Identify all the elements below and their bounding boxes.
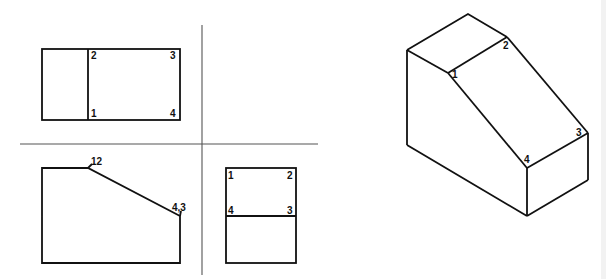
front-view-label-12: 12 bbox=[91, 157, 102, 167]
page-edge-strip bbox=[601, 0, 606, 279]
top-view-label-3: 3 bbox=[170, 51, 176, 61]
isometric-view bbox=[407, 14, 588, 216]
side-view-label-3: 3 bbox=[287, 206, 293, 216]
side-view-label-2: 2 bbox=[287, 171, 293, 181]
side-view-label-1: 1 bbox=[228, 171, 234, 181]
side-view bbox=[226, 168, 296, 263]
top-view-label-4: 4 bbox=[170, 109, 176, 119]
side-view-label-4: 4 bbox=[228, 206, 234, 216]
top-view-label-2: 2 bbox=[91, 51, 97, 61]
iso-label-4: 4 bbox=[524, 155, 530, 165]
projection-diagram bbox=[0, 0, 606, 279]
iso-label-1: 1 bbox=[452, 70, 458, 80]
top-view-label-1: 1 bbox=[91, 109, 97, 119]
front-view-label-43: 4,3 bbox=[172, 203, 186, 213]
front-view bbox=[42, 164, 181, 263]
iso-label-3: 3 bbox=[576, 128, 582, 138]
iso-label-2: 2 bbox=[503, 41, 509, 51]
top-view bbox=[42, 49, 180, 120]
